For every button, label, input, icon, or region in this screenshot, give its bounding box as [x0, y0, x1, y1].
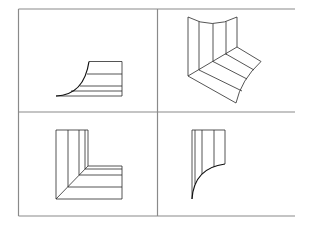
- curve-edge: [192, 164, 225, 199]
- top-arc: [188, 17, 237, 24]
- figure-bottom-left: [56, 130, 122, 199]
- outer-curve: [236, 62, 261, 104]
- diagram-canvas: [0, 0, 310, 232]
- figure-bottom-right: [192, 130, 225, 199]
- figure-top-left: [56, 62, 122, 97]
- figure-top-right: [188, 17, 261, 103]
- diagram-svg: [0, 0, 310, 232]
- panel-grid: [19, 9, 296, 216]
